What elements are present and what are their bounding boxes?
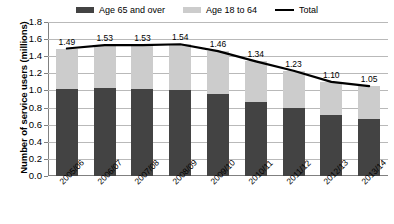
data-label: 1.23 [285,59,302,68]
legend-item-1: Age 18 to 64 [183,6,257,15]
y-axis-tick-label: 1.2 [29,69,42,79]
legend-item-2: Total [275,6,318,15]
data-label: 1.54 [172,33,189,42]
y-axis-tick-mark [44,176,48,177]
legend-label: Age 18 to 64 [206,6,257,15]
y-axis-tick-label: 0.2 [29,154,42,164]
chart-legend: Age 65 and overAge 18 to 64Total [0,0,394,20]
data-label: 1.10 [323,70,340,79]
y-axis-title: Number of service users (millions) [18,13,29,183]
y-axis-tick-label: 1.6 [29,34,42,44]
y-axis-tick-label: 0.8 [29,103,42,113]
y-axis-tick-label: 1.0 [29,86,42,96]
data-label: 1.34 [247,50,264,59]
total-line-path [67,44,369,86]
legend-label: Total [299,6,318,15]
bar-swatch-dark-icon [76,7,94,13]
y-axis-tick-label: 1.8 [29,17,42,27]
data-label: 1.49 [59,37,76,46]
chart-container: Age 65 and overAge 18 to 64Total Number … [0,0,394,224]
line-swatch-black-icon [275,9,294,11]
data-label: 1.53 [96,34,113,43]
legend-item-0: Age 65 and over [76,6,165,15]
plot-area: 1.81.61.41.21.00.80.60.40.20.0 1.491.531… [48,22,388,176]
y-axis-tick-label: 0.6 [29,120,42,130]
data-label: 1.46 [210,40,227,49]
legend-label: Age 65 and over [99,6,165,15]
data-label: 1.05 [361,75,378,84]
data-label: 1.53 [134,34,151,43]
bar-swatch-light-icon [183,7,201,13]
y-axis-tick-label: 0.0 [29,171,42,181]
y-axis-tick-label: 1.4 [29,51,42,61]
y-axis-tick-label: 0.4 [29,137,42,147]
